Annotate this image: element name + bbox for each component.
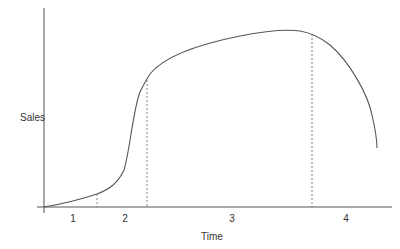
y-axis-label: Sales <box>20 112 45 123</box>
stage-label-2: 2 <box>122 213 128 224</box>
stage-label-3: 3 <box>229 213 235 224</box>
stage-label-4: 4 <box>343 213 349 224</box>
x-axis-label: Time <box>201 231 223 242</box>
sales-curve <box>44 30 377 207</box>
product-life-cycle-chart <box>0 0 400 249</box>
stage-label-1: 1 <box>70 213 76 224</box>
